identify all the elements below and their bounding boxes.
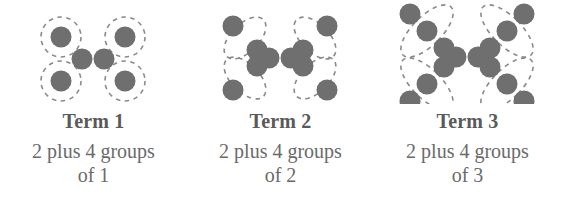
dot bbox=[497, 74, 518, 95]
term-panel-2: Term 2 2 plus 4 groups of 2 bbox=[187, 0, 374, 214]
term-3-caption: 2 plus 4 groups of 3 bbox=[375, 139, 561, 187]
center-dot bbox=[281, 48, 302, 69]
term-3-dot-arrangement bbox=[374, 0, 561, 104]
dot bbox=[417, 74, 438, 95]
dot bbox=[317, 16, 338, 37]
term-panel-1: Term 1 2 plus 4 groups of 1 bbox=[0, 0, 187, 214]
dot bbox=[514, 91, 535, 105]
term-1-caption: 2 plus 4 groups of 1 bbox=[1, 139, 187, 187]
term-2-caption: 2 plus 4 groups of 2 bbox=[188, 139, 374, 187]
term-3-center-dots bbox=[446, 47, 489, 68]
term-2-dot-arrangement bbox=[187, 0, 374, 104]
center-dot bbox=[446, 47, 467, 68]
center-dot bbox=[468, 47, 489, 68]
dot bbox=[115, 27, 136, 48]
term-2-center-dots bbox=[259, 48, 302, 69]
dot bbox=[223, 80, 244, 101]
dot bbox=[400, 4, 421, 25]
dot bbox=[514, 4, 535, 25]
term-3-groups bbox=[393, 0, 542, 104]
term-3-diagram bbox=[374, 0, 561, 104]
dot bbox=[223, 16, 244, 37]
term-1-diagram bbox=[0, 0, 187, 104]
term-1-groups bbox=[41, 17, 145, 101]
term-panel-3: Term 3 2 plus 4 groups of 3 bbox=[374, 0, 561, 214]
dot bbox=[115, 71, 136, 92]
dot bbox=[400, 91, 421, 105]
dot bbox=[51, 71, 72, 92]
dot bbox=[417, 21, 438, 42]
center-dot bbox=[259, 48, 280, 69]
center-dot bbox=[94, 49, 115, 70]
term-2-diagram bbox=[187, 0, 374, 104]
term-2-groups bbox=[217, 10, 344, 104]
dot bbox=[317, 80, 338, 101]
term-1-dot-arrangement bbox=[0, 0, 187, 104]
term-3-title: Term 3 bbox=[436, 110, 498, 132]
term-2-title: Term 2 bbox=[249, 110, 311, 132]
dot bbox=[51, 27, 72, 48]
center-dot bbox=[72, 49, 93, 70]
term-1-title: Term 1 bbox=[62, 110, 124, 132]
dot bbox=[497, 21, 518, 42]
term-1-center-dots bbox=[72, 49, 115, 70]
growing-pattern-figure: Term 1 2 plus 4 groups of 1 bbox=[0, 0, 561, 214]
